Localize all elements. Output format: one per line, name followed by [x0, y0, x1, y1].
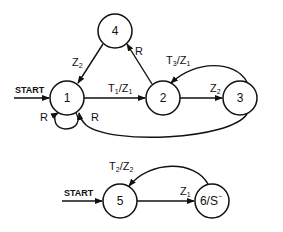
- svg-text:T2/Z2: T2/Z2: [109, 160, 133, 173]
- machine-a: START 1 4 2 3 T1/Z1: [14, 14, 257, 137]
- svg-text:T1/Z1: T1/Z1: [108, 82, 132, 95]
- state-label: 3: [237, 91, 244, 105]
- start-arrow-b: START: [62, 188, 102, 201]
- transition-5-6: Z1: [137, 185, 194, 201]
- state-1: 1: [50, 81, 84, 115]
- state-4: 4: [98, 14, 132, 48]
- svg-text:Z2: Z2: [72, 56, 83, 69]
- svg-text:R: R: [91, 111, 99, 123]
- svg-text:T3/Z1: T3/Z1: [166, 54, 190, 67]
- state-label: 6/S: [200, 194, 218, 208]
- svg-text:R: R: [135, 45, 143, 57]
- state-label: 4: [112, 24, 119, 38]
- transition-4-1: Z2: [72, 44, 103, 83]
- state-6: 6/S−: [195, 184, 229, 218]
- svg-text:R: R: [40, 111, 48, 123]
- state-label: 1: [64, 91, 71, 105]
- state-label: 5: [117, 194, 124, 208]
- transition-1-2: T1/Z1: [84, 82, 145, 98]
- state-3: 3: [223, 81, 257, 115]
- start-arrow-a: START: [14, 85, 49, 98]
- svg-text:Z1: Z1: [180, 185, 191, 198]
- state-2: 2: [146, 81, 180, 115]
- transition-6-5: T2/Z2: [109, 160, 208, 186]
- state-diagram: START 1 4 2 3 T1/Z1: [0, 0, 283, 232]
- state-label: 2: [160, 91, 167, 105]
- state-5: 5: [103, 184, 137, 218]
- machine-b: START 5 6/S− Z1 T2/Z2: [62, 160, 229, 218]
- start-label: START: [64, 188, 94, 198]
- start-label: START: [15, 85, 45, 95]
- transition-2-4: R: [127, 44, 152, 84]
- transition-3-2: T3/Z1: [166, 54, 247, 83]
- svg-text:Z2: Z2: [210, 82, 221, 95]
- transition-2-3: Z2: [180, 82, 222, 98]
